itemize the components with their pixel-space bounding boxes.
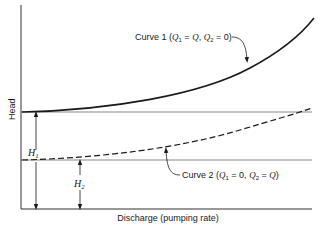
h2-label: H2 — [73, 178, 85, 191]
h2-dimension: H2 — [73, 162, 85, 207]
curve-1-leader-arrow-icon — [232, 37, 247, 60]
x-axis-label: Discharge (pumping rate) — [117, 213, 219, 223]
curve-1-annotation: Curve 1 (Q1 = Q, Q2 = 0) — [135, 32, 247, 60]
y-axis-label: Head — [7, 98, 17, 120]
pump-system-head-discharge-diagram: H1 H2 Curve 1 (Q1 = Q, Q2 = 0) Curve 2 (… — [0, 0, 322, 229]
curve-1-label: Curve 1 (Q1 = Q, Q2 = 0) — [135, 32, 232, 43]
curve-2-dashed — [22, 108, 312, 160]
curve-2-label: Curve 2 (Q1 = 0, Q2 = Q) — [182, 170, 279, 181]
curve-2-annotation: Curve 2 (Q1 = 0, Q2 = Q) — [166, 150, 279, 181]
h1-dimension: H1 — [27, 114, 39, 207]
curve-2-leader-arrow-icon — [166, 150, 180, 175]
h1-label: H1 — [27, 147, 39, 160]
